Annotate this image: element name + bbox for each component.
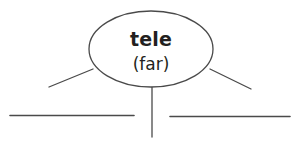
root-word-label: tele [130,28,172,50]
branch-line-right [210,69,251,89]
organizer-canvas: tele (far) [0,0,296,161]
root-meaning-label: (far) [133,54,170,74]
branch-line-left [49,69,93,87]
root-word-graphic-organizer: tele (far) [0,0,296,161]
